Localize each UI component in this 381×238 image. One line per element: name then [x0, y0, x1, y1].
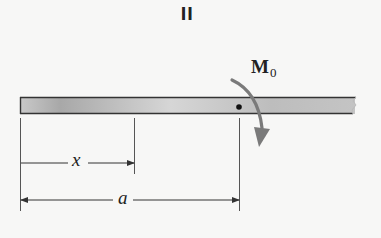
moment-subscript: 0 — [270, 65, 277, 80]
load-point-dot — [236, 104, 242, 110]
panel-label: II — [181, 4, 194, 23]
dimension-x-label: x — [72, 150, 80, 169]
moment-symbol: M — [251, 56, 269, 77]
beam-diagram: II M0 x a — [0, 0, 381, 238]
extension-lines — [21, 118, 240, 211]
moment-label: M0 — [251, 57, 276, 76]
dimension-a-label: a — [118, 188, 128, 207]
beam — [20, 97, 356, 114]
diagram-graphics — [0, 0, 381, 238]
